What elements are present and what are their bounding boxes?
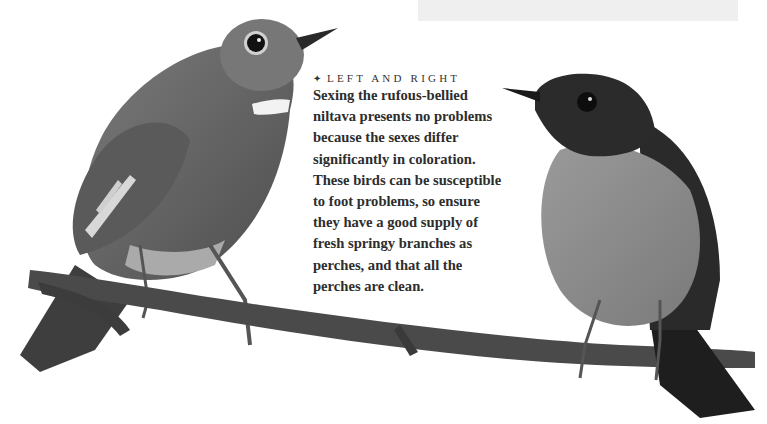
caption-line: because the sexes differ — [313, 127, 523, 148]
caption-line: they have a good supply of — [313, 212, 523, 233]
photo-caption: ✦LEFT AND RIGHT Sexing the rufous-bellie… — [313, 72, 523, 297]
caption-heading: ✦LEFT AND RIGHT — [313, 72, 523, 84]
caption-line: These birds can be susceptible — [313, 170, 523, 191]
caption-line: perches are clean. — [313, 276, 523, 297]
caption-line: perches, and that all the — [313, 255, 523, 276]
male-bird — [502, 74, 755, 418]
diamond-bullet-icon: ✦ — [313, 73, 321, 84]
caption-body: Sexing the rufous-bellied niltava presen… — [313, 85, 523, 297]
caption-heading-text: LEFT AND RIGHT — [327, 72, 460, 84]
caption-line: to foot problems, so ensure — [313, 191, 523, 212]
caption-line: niltava presents no problems — [313, 106, 523, 127]
caption-line: fresh springy branches as — [313, 233, 523, 254]
caption-line: significantly in coloration. — [313, 149, 523, 170]
caption-line: Sexing the rufous-bellied — [313, 85, 523, 106]
